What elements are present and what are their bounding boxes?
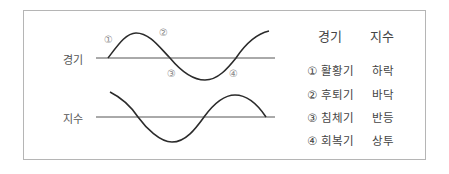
legend-phase-3: ③ 침체기 <box>307 109 354 125</box>
economy-wave <box>108 31 269 80</box>
marker-3: ③ <box>167 68 176 79</box>
legend-index-3: 반등 <box>372 109 394 125</box>
legend-header-economy: 경기 <box>318 26 342 45</box>
legend-index-4: 상투 <box>372 132 394 148</box>
legend-phase-1: ① 활황기 <box>307 62 354 78</box>
marker-2: ② <box>159 27 168 38</box>
legend-index-1: 하락 <box>372 62 394 78</box>
legend-phase-4: ④ 회복기 <box>307 132 354 148</box>
legend-phase-2: ② 후퇴기 <box>307 86 354 102</box>
legend-index-2: 바닥 <box>372 86 394 102</box>
marker-4: ④ <box>229 68 238 79</box>
index-label: 지수 <box>63 110 83 126</box>
economy-label: 경기 <box>63 51 83 67</box>
legend-header-index: 지수 <box>370 26 394 45</box>
marker-1: ① <box>104 34 113 45</box>
